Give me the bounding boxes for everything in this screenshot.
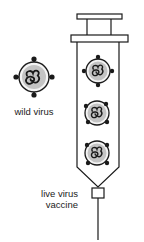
syringe-flange xyxy=(71,35,128,42)
vaccine-label-line2: vaccine xyxy=(20,199,78,210)
vaccine-virus-icon xyxy=(85,141,109,165)
vaccine-virus-icon xyxy=(84,101,109,125)
needle-hub xyxy=(92,188,104,198)
syringe-icon xyxy=(71,14,128,240)
wild-virus-label: wild virus xyxy=(0,106,68,117)
plunger-top xyxy=(77,14,122,19)
live-virus-vaccine-label: live virus vaccine xyxy=(20,188,78,210)
vaccine-label-line1: live virus xyxy=(20,188,78,199)
wild-virus-icon xyxy=(13,56,54,97)
vaccine-virus-icon xyxy=(82,55,114,87)
